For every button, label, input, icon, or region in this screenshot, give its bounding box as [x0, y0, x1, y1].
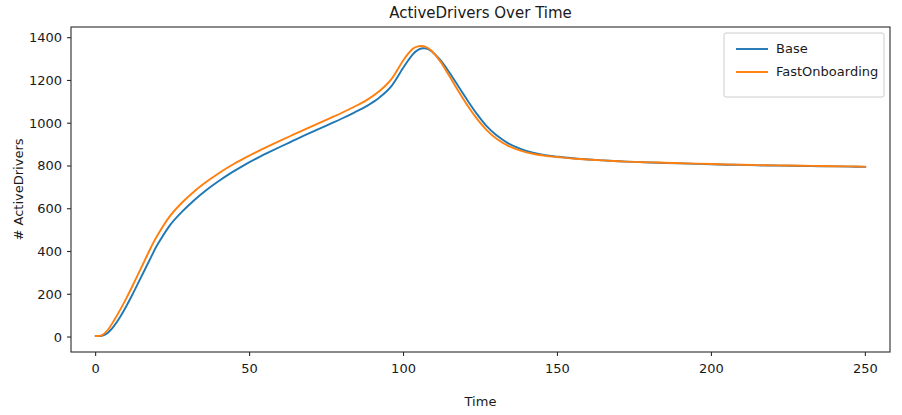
x-tick-label: 200: [699, 361, 724, 376]
x-axis-label: Time: [464, 394, 497, 409]
line-chart: ActiveDrivers Over Time 0200400600800100…: [0, 0, 902, 415]
x-tick-label: 150: [545, 361, 570, 376]
y-tick-label: 1400: [29, 30, 62, 45]
chart-title: ActiveDrivers Over Time: [389, 4, 572, 22]
y-tick-label: 800: [37, 158, 62, 173]
chart-legend[interactable]: BaseFastOnboarding: [724, 33, 884, 97]
y-tick-label: 200: [37, 287, 62, 302]
y-tick-label: 600: [37, 201, 62, 216]
x-tick-label: 250: [853, 361, 878, 376]
legend-label-base: Base: [776, 41, 808, 56]
y-axis-label: # ActiveDrivers: [11, 138, 26, 240]
chart-figure: ActiveDrivers Over Time 0200400600800100…: [0, 0, 902, 415]
legend-label-fastonboarding: FastOnboarding: [776, 64, 878, 79]
y-tick-label: 1200: [29, 73, 62, 88]
x-tick-label: 50: [241, 361, 258, 376]
y-tick-label: 1000: [29, 116, 62, 131]
y-tick-label: 0: [54, 330, 62, 345]
y-tick-label: 400: [37, 244, 62, 259]
x-tick-label: 100: [391, 361, 416, 376]
x-tick-label: 0: [91, 361, 99, 376]
